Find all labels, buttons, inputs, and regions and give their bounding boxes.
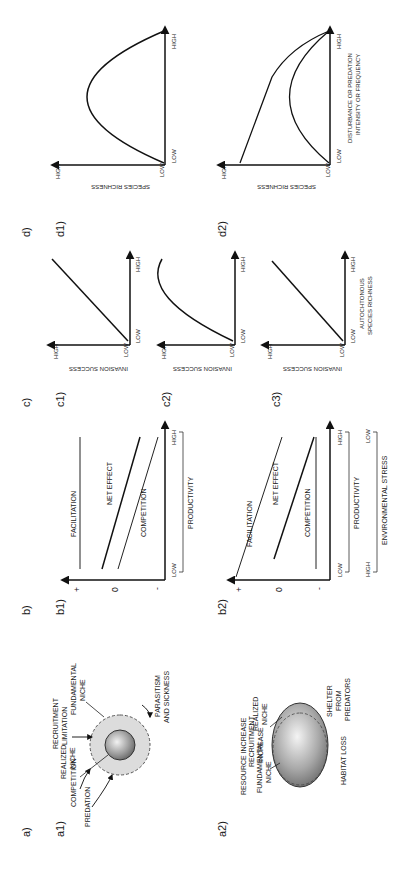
svg-text:LOW: LOW [240, 329, 246, 343]
label-predators: PREDATORS [344, 678, 351, 721]
parasitism-arrow [142, 705, 150, 717]
d1-curve [87, 31, 164, 163]
panel-label-d1: d1) [54, 221, 66, 237]
svg-text:ENVIRONMENTAL STRESS: ENVIRONMENTAL STRESS [381, 455, 388, 545]
panel-label-a2: a2) [216, 821, 228, 837]
svg-text:LOW: LOW [171, 149, 177, 163]
label-parasitism: PARASITISM [154, 675, 161, 717]
svg-text:HIGH: HIGH [161, 344, 167, 359]
panel-label-c2: c2) [160, 392, 172, 407]
svg-text:NET EFFECT: NET EFFECT [272, 461, 279, 505]
panel-c2: c2) HIGH LOW LOW HIGH INVASION SUCCESS [158, 252, 246, 407]
d2-decreasing-curve [240, 31, 329, 163]
label-fundamental-a2: FUNDAMENTAL [256, 741, 263, 793]
figure-canvas: a) a1) PREDATION COMPETITION REALIZED NI… [0, 0, 405, 877]
label-limitation: LIMITATION [61, 707, 68, 745]
svg-text:-: - [152, 587, 162, 590]
svg-text:LOW: LOW [229, 343, 235, 357]
svg-text:LOW: LOW [365, 429, 371, 443]
svg-text:HIGH: HIGH [337, 430, 343, 445]
svg-text:-: - [314, 587, 324, 590]
label-predation: PREDATION [84, 787, 91, 827]
panel-c1: c1) HIGH LOW LOW HIGH INVASION SUCCESS [48, 252, 141, 407]
realized-niche-sphere [105, 730, 135, 760]
svg-text:PRODUCTIVITY: PRODUCTIVITY [187, 477, 194, 529]
panel-c3: c3) HIGH LOW LOW HIGH AUTOCHTONOUS SPECI… [262, 252, 373, 407]
svg-text:0: 0 [110, 587, 120, 592]
svg-text:SPECIES RICHNESS: SPECIES RICHNESS [257, 184, 316, 190]
panel-d1: d1) HIGH LOW LOW HIGH SPECIES RICHNESS [52, 27, 177, 237]
panel-d2: d2) HIGH LOW LOW HIGH DISTURBANCE OR PRE… [216, 27, 361, 237]
label-realized: REALIZED [60, 745, 67, 779]
svg-text:AUTOCHTONOUS: AUTOCHTONOUS [359, 278, 365, 329]
label-fundamental: FUNDAMENTAL [70, 663, 77, 715]
svg-text:LOW: LOW [336, 149, 342, 163]
label-niche2-a2: NICHE [265, 761, 272, 783]
svg-text:HIGH: HIGH [135, 257, 141, 272]
panel-label-b1: b1) [54, 599, 66, 615]
svg-text:SPECIES RICHNESS: SPECIES RICHNESS [367, 276, 373, 335]
panel-label-d2: d2) [216, 221, 228, 237]
svg-text:SPECIES RICHNESS: SPECIES RICHNESS [91, 184, 150, 190]
svg-text:HIGH: HIGH [221, 164, 227, 179]
svg-text:LOW: LOW [337, 563, 343, 577]
c2-curve [158, 259, 233, 341]
svg-text:INTENSITY OR FREQUENCY: INTENSITY OR FREQUENCY [355, 54, 361, 135]
svg-text:HIGH: HIGH [336, 34, 342, 49]
label-habitat-loss: HABITAT LOSS [340, 736, 347, 785]
svg-text:0: 0 [274, 587, 284, 592]
panel-d: d) d1) HIGH LOW LOW HIGH SPECIES RICHNES… [20, 27, 361, 237]
panel-label-b: b) [20, 605, 32, 615]
svg-text:+: + [72, 587, 82, 592]
label-niche-a2: NICHE [261, 703, 268, 725]
label-niche-2: NICHE [79, 679, 86, 701]
svg-text:INVASION SUCCESS: INVASION SUCCESS [173, 366, 232, 372]
svg-text:LOW: LOW [350, 329, 356, 343]
svg-text:LOW: LOW [325, 163, 331, 177]
panel-a2: a2) RESOURCE INCREASE REALIZED NICHE REC… [216, 678, 351, 837]
panel-label-a: a) [20, 827, 32, 837]
label-sickness: AND SICKNESS [163, 671, 170, 723]
panel-b2: b2) + 0 - FACILITATION NET EFFECT COMPET… [216, 422, 388, 615]
predation-arrow [92, 775, 112, 807]
label-recruitment-a2: RECRUITMENT [248, 715, 255, 767]
panel-b: b) b1) + 0 - FACILITATION NET EFFECT COM… [20, 422, 388, 615]
panel-label-c3: c3) [270, 392, 282, 407]
svg-text:LOW: LOW [339, 343, 345, 357]
svg-text:HIGH: HIGH [171, 430, 177, 445]
label-niche: NICHE [69, 747, 76, 769]
svg-text:LOW: LOW [159, 163, 165, 177]
fundamental-leader [86, 702, 104, 717]
svg-text:HIGH: HIGH [55, 164, 61, 179]
svg-text:NET EFFECT: NET EFFECT [106, 461, 113, 505]
svg-text:HIGH: HIGH [365, 562, 371, 577]
svg-text:PRODUCTIVITY: PRODUCTIVITY [353, 477, 360, 529]
label-resource-increase: RESOURCE INCREASE [240, 717, 247, 795]
c1-curve [52, 259, 128, 341]
label-recruitment: RECRUITMENT [52, 697, 59, 749]
panel-a1: a1) PREDATION COMPETITION REALIZED NICHE… [52, 663, 170, 837]
svg-text:LOW: LOW [123, 343, 129, 357]
svg-text:FACILITATION: FACILITATION [70, 491, 77, 537]
svg-text:HIGH: HIGH [171, 34, 177, 49]
label-shelter: SHELTER [326, 685, 333, 717]
panel-label-b2: b2) [216, 599, 228, 615]
svg-text:FACILITATION: FACILITATION [246, 501, 253, 547]
label-from: FROM [335, 690, 342, 711]
panel-label-c: c) [20, 398, 32, 407]
panel-label-d: d) [20, 227, 32, 237]
c3-curve [272, 261, 343, 341]
svg-text:LOW: LOW [171, 563, 177, 577]
svg-text:HIGH: HIGH [267, 344, 273, 359]
panel-b1: b1) + 0 - FACILITATION NET EFFECT COMPET… [54, 422, 194, 615]
svg-text:INVASION SUCCESS: INVASION SUCCESS [69, 366, 128, 372]
svg-text:DISTURBANCE OR PREDATION: DISTURBANCE OR PREDATION [347, 53, 353, 143]
svg-text:HIGH: HIGH [350, 257, 356, 272]
svg-text:LOW: LOW [135, 329, 141, 343]
panel-label-a1: a1) [54, 821, 66, 837]
panel-c: c) c1) HIGH LOW LOW HIGH INVASION SUCCES… [20, 252, 373, 407]
panel-a: a) a1) PREDATION COMPETITION REALIZED NI… [20, 663, 351, 837]
svg-text:+: + [234, 587, 244, 592]
svg-text:COMPETITION: COMPETITION [304, 488, 311, 537]
svg-text:COMPETITION: COMPETITION [140, 488, 147, 537]
